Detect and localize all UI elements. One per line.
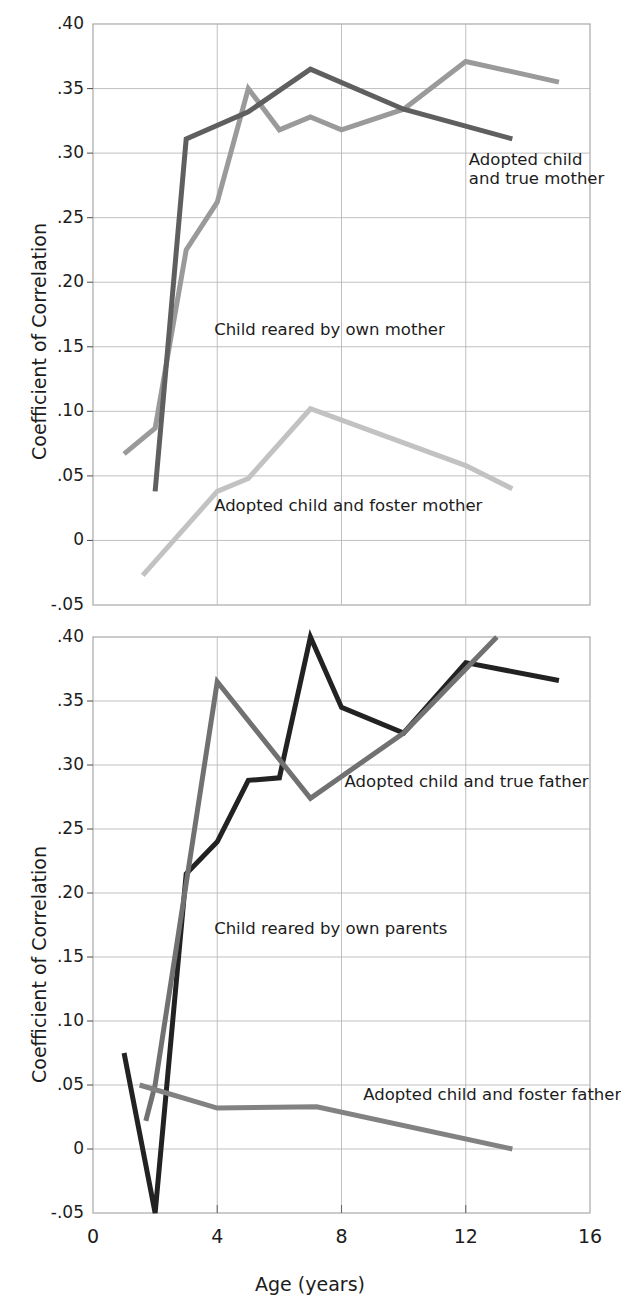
x-tick-label: 4 [192, 1225, 242, 1247]
label-own-mother: Child reared by own mother [214, 320, 445, 339]
x-tick-label: 0 [68, 1225, 118, 1247]
chart-top: Coefficient of Correlation -.050.05.10.1… [0, 0, 620, 640]
label-own-parents: Child reared by own parents [214, 919, 447, 938]
label-foster-father: Adopted child and foster father [363, 1085, 621, 1104]
x-tick-label: 16 [565, 1225, 615, 1247]
x-axis-title: Age (years) [0, 1273, 620, 1295]
x-tick-label: 8 [317, 1225, 367, 1247]
chart-bottom: Coefficient of Correlation -.050.05.10.1… [0, 613, 620, 1303]
label-adopted-true-father: Adopted child and true father [345, 772, 589, 791]
x-tick-label: 12 [441, 1225, 491, 1247]
label-adopted-true-mother: Adopted child and true mother [469, 150, 604, 188]
plot-area-bottom [0, 613, 620, 1303]
label-foster-mother: Adopted child and foster mother [214, 496, 482, 515]
